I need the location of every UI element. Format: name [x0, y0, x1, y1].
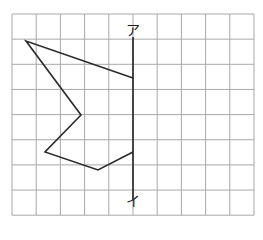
- half-figure-shape: [26, 41, 133, 170]
- axis-label-i: イ: [126, 194, 140, 208]
- axis-label-a: ア: [126, 23, 140, 37]
